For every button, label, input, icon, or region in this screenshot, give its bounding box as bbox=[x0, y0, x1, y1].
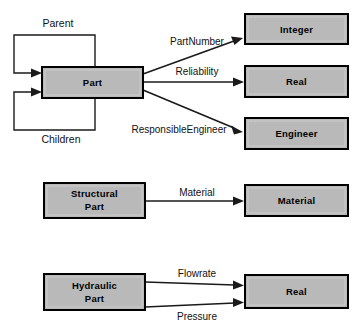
hydraulic-part-label-line2: Part bbox=[85, 293, 105, 304]
pressure-line bbox=[145, 303, 235, 307]
hydraulic-part-label-line1: Hydraulic bbox=[72, 280, 117, 291]
flowrate-label: Flowrate bbox=[178, 268, 217, 279]
structural-part-label-line1: Structural bbox=[71, 188, 118, 199]
real-top-label: Real bbox=[286, 76, 307, 87]
entity-box-real-top[interactable]: Real bbox=[245, 66, 348, 97]
entity-box-hydraulic-part[interactable]: Hydraulic Part bbox=[44, 274, 145, 310]
entity-box-real-bottom[interactable]: Real bbox=[245, 275, 348, 308]
material-edge-label: Material bbox=[179, 187, 215, 198]
children-loop-arrowhead bbox=[31, 88, 42, 97]
edge-pressure bbox=[145, 298, 244, 307]
responsibleengineer-arrowhead bbox=[231, 126, 243, 135]
entity-box-structural-part[interactable]: Structural Part bbox=[44, 183, 145, 218]
children-loop-label: Children bbox=[41, 133, 80, 145]
pressure-label: Pressure bbox=[177, 311, 217, 322]
material-label: Material bbox=[278, 195, 316, 206]
pressure-arrowhead bbox=[233, 298, 244, 307]
flowrate-line bbox=[145, 282, 235, 285]
entity-box-engineer[interactable]: Engineer bbox=[245, 118, 348, 149]
structural-part-label-line2: Part bbox=[85, 201, 105, 212]
partnumber-arrowhead bbox=[231, 37, 243, 46]
engineer-label: Engineer bbox=[275, 128, 317, 139]
entity-box-material[interactable]: Material bbox=[245, 185, 348, 216]
entity-box-part[interactable]: Part bbox=[42, 67, 143, 98]
reliability-label: Reliability bbox=[176, 66, 219, 77]
edge-reliability bbox=[143, 78, 244, 87]
flowrate-arrowhead bbox=[233, 281, 244, 290]
partnumber-label: PartNumber bbox=[170, 36, 225, 47]
parent-loop-arrowhead bbox=[31, 69, 42, 78]
reliability-arrowhead bbox=[233, 78, 244, 87]
material-arrowhead bbox=[233, 197, 244, 206]
entity-box-integer[interactable]: Integer bbox=[245, 14, 348, 44]
entity-relationship-diagram: Part Integer Real Engineer Parent Childr… bbox=[0, 0, 363, 331]
integer-label: Integer bbox=[280, 24, 313, 35]
real-bottom-label: Real bbox=[286, 286, 307, 297]
part-label: Part bbox=[83, 77, 103, 88]
parent-loop-label: Parent bbox=[43, 17, 74, 29]
responsibleengineer-line bbox=[143, 90, 234, 128]
edge-flowrate bbox=[145, 281, 244, 290]
responsibleengineer-label: ResponsibleEngineer bbox=[131, 124, 227, 135]
